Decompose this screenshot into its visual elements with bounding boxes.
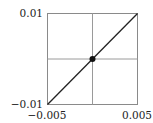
x-tick-left: −0.005 — [28, 109, 67, 121]
y-tick-top: 0.01 — [20, 7, 43, 19]
x-tick-right: 0.005 — [122, 109, 152, 121]
chart: 0.01 −0.01 −0.005 0.005 — [0, 0, 153, 123]
data-point — [90, 56, 96, 62]
